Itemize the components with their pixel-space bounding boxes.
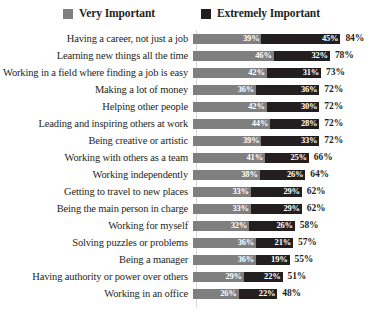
bar-container: 36%36%72%: [193, 81, 383, 98]
bar-row: Working for myself32%26%58%: [0, 217, 383, 234]
bar-container: 44%28%72%: [193, 115, 383, 132]
category-label: Working for myself: [0, 220, 193, 231]
stacked-bar: 39%45%: [193, 34, 340, 44]
segment-value-label: 36%: [238, 255, 254, 264]
category-label: Making a lot of money: [0, 84, 193, 95]
bar-row: Learning new things all the time46%32%78…: [0, 47, 383, 64]
segment-value-label: 29%: [283, 187, 299, 196]
row-total-label: 62%: [307, 204, 326, 214]
bar-segment-very-important: 46%: [193, 51, 274, 61]
stacked-bar: 36%21%: [193, 238, 293, 248]
row-total-label: 72%: [324, 119, 343, 129]
bar-segment-very-important: 36%: [193, 255, 256, 265]
row-total-label: 58%: [300, 221, 319, 231]
bar-row: Leading and inspiring others at work44%2…: [0, 115, 383, 132]
bar-segment-extremely-important: 31%: [267, 68, 321, 78]
segment-value-label: 38%: [241, 170, 257, 179]
bar-segment-extremely-important: 21%: [256, 238, 293, 248]
bar-container: 42%30%72%: [193, 98, 383, 115]
square-swatch-icon: [201, 9, 211, 19]
row-total-label: 62%: [307, 187, 326, 197]
bar-segment-extremely-important: 36%: [256, 85, 319, 95]
segment-value-label: 22%: [264, 272, 280, 281]
row-total-label: 73%: [326, 68, 345, 78]
segment-value-label: 21%: [275, 238, 291, 247]
bar-segment-very-important: 36%: [193, 238, 256, 248]
bar-segment-extremely-important: 45%: [261, 34, 340, 44]
segment-value-label: 29%: [225, 272, 241, 281]
stacked-bar: 38%26%: [193, 170, 305, 180]
row-total-label: 66%: [314, 153, 333, 163]
bar-rows: Having a career, not just a job39%45%84%…: [0, 30, 383, 302]
bar-segment-very-important: 26%: [193, 289, 239, 299]
row-total-label: 55%: [295, 255, 314, 265]
bar-row: Being a manager36%19%55%: [0, 251, 383, 268]
bar-segment-extremely-important: 29%: [251, 204, 302, 214]
segment-value-label: 28%: [301, 119, 317, 128]
segment-value-label: 32%: [231, 221, 247, 230]
segment-value-label: 39%: [243, 34, 259, 43]
bar-segment-very-important: 39%: [193, 34, 261, 44]
segment-value-label: 33%: [233, 187, 249, 196]
segment-value-label: 26%: [287, 170, 303, 179]
bar-container: 26%22%48%: [193, 285, 383, 302]
segment-value-label: 19%: [271, 255, 287, 264]
bar-segment-extremely-important: 33%: [261, 136, 319, 146]
stacked-bar: 44%28%: [193, 119, 319, 129]
category-label: Helping other people: [0, 101, 193, 112]
category-label: Working with others as a team: [0, 152, 193, 163]
row-total-label: 78%: [335, 51, 354, 61]
bar-container: 41%25%66%: [193, 149, 383, 166]
bar-row: Working with others as a team41%25%66%: [0, 149, 383, 166]
stacked-bar: 46%32%: [193, 51, 330, 61]
stacked-bar: 33%29%: [193, 187, 302, 197]
bar-row: Helping other people42%30%72%: [0, 98, 383, 115]
stacked-bar: 36%19%: [193, 255, 290, 265]
segment-value-label: 31%: [303, 68, 319, 77]
segment-value-label: 30%: [301, 102, 317, 111]
bar-row: Making a lot of money36%36%72%: [0, 81, 383, 98]
bar-segment-extremely-important: 22%: [244, 272, 283, 282]
category-label: Working in a field where finding a job i…: [0, 67, 193, 78]
legend-label: Extremely Important: [217, 8, 320, 20]
segment-value-label: 36%: [301, 85, 317, 94]
row-total-label: 72%: [324, 102, 343, 112]
bar-row: Being creative or artistic39%33%72%: [0, 132, 383, 149]
row-total-label: 51%: [288, 272, 307, 282]
stacked-bar: 41%25%: [193, 153, 309, 163]
bar-row: Being the main person in charge33%29%62%: [0, 200, 383, 217]
bar-row: Working in an office26%22%48%: [0, 285, 383, 302]
bar-segment-extremely-important: 25%: [265, 153, 309, 163]
square-swatch-icon: [63, 9, 73, 19]
segment-value-label: 22%: [259, 289, 275, 298]
bar-container: 42%31%73%: [193, 64, 383, 81]
row-total-label: 72%: [324, 85, 343, 95]
bar-segment-very-important: 42%: [193, 68, 267, 78]
segment-value-label: 33%: [301, 136, 317, 145]
bar-segment-extremely-important: 26%: [260, 170, 306, 180]
category-label: Being the main person in charge: [0, 203, 193, 214]
bar-row: Solving puzzles or problems36%21%57%: [0, 234, 383, 251]
row-total-label: 48%: [282, 289, 301, 299]
bar-row: Working in a field where finding a job i…: [0, 64, 383, 81]
segment-value-label: 25%: [290, 153, 306, 162]
bar-segment-very-important: 39%: [193, 136, 261, 146]
row-total-label: 64%: [310, 170, 329, 180]
row-total-label: 84%: [345, 34, 364, 44]
bar-segment-extremely-important: 29%: [251, 187, 302, 197]
bar-segment-very-important: 42%: [193, 102, 267, 112]
bar-container: 39%33%72%: [193, 132, 383, 149]
bar-container: 46%32%78%: [193, 47, 383, 64]
segment-value-label: 46%: [255, 51, 271, 60]
bar-container: 33%29%62%: [193, 183, 383, 200]
category-label: Working independently: [0, 169, 193, 180]
stacked-bar: 29%22%: [193, 272, 283, 282]
segment-value-label: 26%: [276, 221, 292, 230]
bar-segment-very-important: 32%: [193, 221, 249, 231]
segment-value-label: 42%: [248, 102, 264, 111]
segment-value-label: 44%: [252, 119, 268, 128]
category-label: Having a career, not just a job: [0, 33, 193, 44]
bar-segment-very-important: 41%: [193, 153, 265, 163]
segment-value-label: 32%: [311, 51, 327, 60]
stacked-bar: 26%22%: [193, 289, 277, 299]
